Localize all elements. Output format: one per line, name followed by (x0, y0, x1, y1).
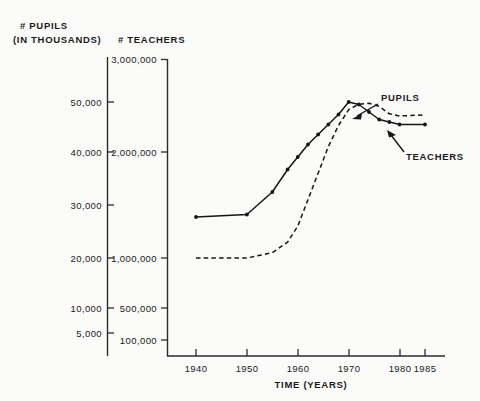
left-tick-label-40000: 40,000 (71, 147, 102, 158)
annotation-arrowhead-teachers (387, 130, 396, 138)
x-tick-label-1985: 1985 (414, 363, 437, 374)
series-marker (286, 168, 290, 172)
series-line-pupils (196, 102, 425, 217)
x-tick-label-1960: 1960 (287, 363, 310, 374)
right-tick-label-1000000: 1,000,000 (111, 253, 157, 264)
chart-figure: # PUPILS (IN THOUSANDS) # TEACHERS 50,00… (0, 0, 480, 401)
chart-svg: # PUPILS (IN THOUSANDS) # TEACHERS 50,00… (0, 0, 480, 401)
x-tick-label-1970: 1970 (338, 363, 361, 374)
right-tick-label-3000000: 3,000,000 (111, 54, 157, 65)
right-tick-label-500000: 500,000 (120, 303, 157, 314)
x-axis: 1940 1950 1960 1970 1980 1985 TIME (YEAR… (167, 349, 445, 390)
left-axis: 50,000 40,000 30,000 20,000 10,000 5,000 (71, 57, 114, 356)
right-tick-label-2000000: 2,000,000 (111, 147, 157, 158)
series-markers-pupils (194, 100, 427, 219)
right-tick-label-100000: 100,000 (120, 335, 157, 346)
annotation-label-teachers: TEACHERS (406, 151, 464, 162)
left-axis-title-line1: # PUPILS (20, 20, 68, 31)
annotation-teachers: TEACHERS (387, 130, 464, 162)
annotation-arrow-teachers (391, 135, 404, 152)
series-marker (306, 143, 310, 147)
annotation-arrowhead-pupils (352, 114, 362, 120)
series-marker (270, 190, 274, 194)
right-axis-title: # TEACHERS (118, 34, 185, 45)
series-marker (337, 113, 341, 117)
series-marker (423, 123, 427, 127)
left-tick-label-30000: 30,000 (71, 200, 102, 211)
series-marker (194, 215, 198, 219)
right-axis: 3,000,000 2,000,000 1,000,000 500,000 10… (111, 54, 167, 356)
series-marker (357, 103, 361, 107)
annotation-label-pupils: PUPILS (381, 92, 420, 103)
left-tick-label-10000: 10,000 (71, 303, 102, 314)
x-axis-title: TIME (YEARS) (275, 379, 348, 390)
series-marker (245, 213, 249, 217)
series-line-teachers (196, 103, 425, 258)
left-tick-label-50000: 50,000 (71, 97, 102, 108)
series-marker (316, 133, 320, 137)
left-tick-label-20000: 20,000 (71, 253, 102, 264)
series-marker (398, 123, 402, 127)
series-marker (387, 120, 391, 124)
series-marker (296, 155, 300, 159)
series-marker (326, 123, 330, 127)
series-marker (347, 100, 351, 104)
series-marker (377, 118, 381, 122)
x-tick-label-1950: 1950 (236, 363, 259, 374)
left-tick-label-5000: 5,000 (76, 328, 102, 339)
left-axis-title-line2: (IN THOUSANDS) (13, 34, 101, 45)
series-group (194, 100, 427, 258)
x-tick-label-1980: 1980 (389, 363, 412, 374)
annotation-pupils: PUPILS (352, 92, 420, 120)
x-tick-label-1940: 1940 (185, 363, 208, 374)
